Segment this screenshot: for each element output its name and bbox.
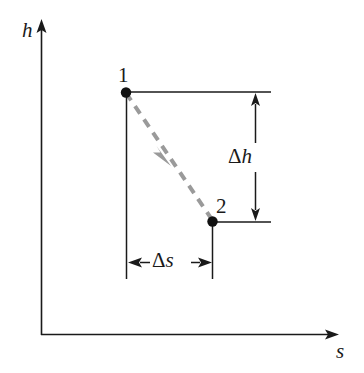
delta-s-symbol-variable: s xyxy=(166,248,174,272)
axis-group xyxy=(37,19,340,340)
delta-h-dimension xyxy=(251,93,260,221)
diagram-canvas xyxy=(0,0,364,373)
delta-s-symbol-delta: Δ xyxy=(152,248,166,272)
hs-diagram: h s 1 2 Δh Δs xyxy=(0,0,364,373)
delta-h-symbol-variable: h xyxy=(242,144,253,168)
delta-h-label: Δh xyxy=(228,146,252,167)
state-point-1-dot xyxy=(121,87,131,97)
process-path-group xyxy=(126,93,213,221)
delta-s-label: Δs xyxy=(152,250,174,271)
state-point-1-label: 1 xyxy=(118,65,129,86)
delta-h-symbol-delta: Δ xyxy=(228,144,242,168)
extension-line-group xyxy=(126,92,271,279)
entropy-axis-label: s xyxy=(336,341,344,362)
delta-s-arrowhead-right xyxy=(198,258,212,268)
process-path-1-to-2 xyxy=(126,93,213,221)
enthalpy-axis-label: h xyxy=(22,20,33,41)
state-point-2-label: 2 xyxy=(216,196,227,217)
delta-s-arrowhead-left xyxy=(128,258,142,268)
